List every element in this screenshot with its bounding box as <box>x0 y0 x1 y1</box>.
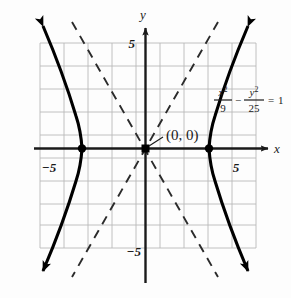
equation-right-hand-side: 1 <box>278 94 284 106</box>
origin-label: (0, 0) <box>166 127 199 144</box>
graph-canvas: (0, 0) x y 5 −5 5 −5 x2 9 − y2 25 = <box>0 0 291 298</box>
x-tick-negative-5: −5 <box>42 160 57 175</box>
y-tick-negative-5: −5 <box>127 244 142 259</box>
equation-y-denominator: 25 <box>249 102 261 114</box>
equation-x-denominator: 9 <box>220 102 226 114</box>
x-tick-positive-5: 5 <box>233 160 240 175</box>
vertex-left-point <box>78 144 86 152</box>
y-tick-positive-5: 5 <box>129 36 136 51</box>
equation-equals-sign: = <box>268 94 274 106</box>
vertex-right-point <box>205 144 213 152</box>
x-axis-label: x <box>273 141 280 156</box>
y-axis-label: y <box>138 7 146 22</box>
hyperbola-figure: (0, 0) x y 5 −5 5 −5 x2 9 − y2 25 = <box>0 0 291 298</box>
center-point-marker <box>142 145 150 153</box>
equation-minus-sign: − <box>235 94 241 106</box>
